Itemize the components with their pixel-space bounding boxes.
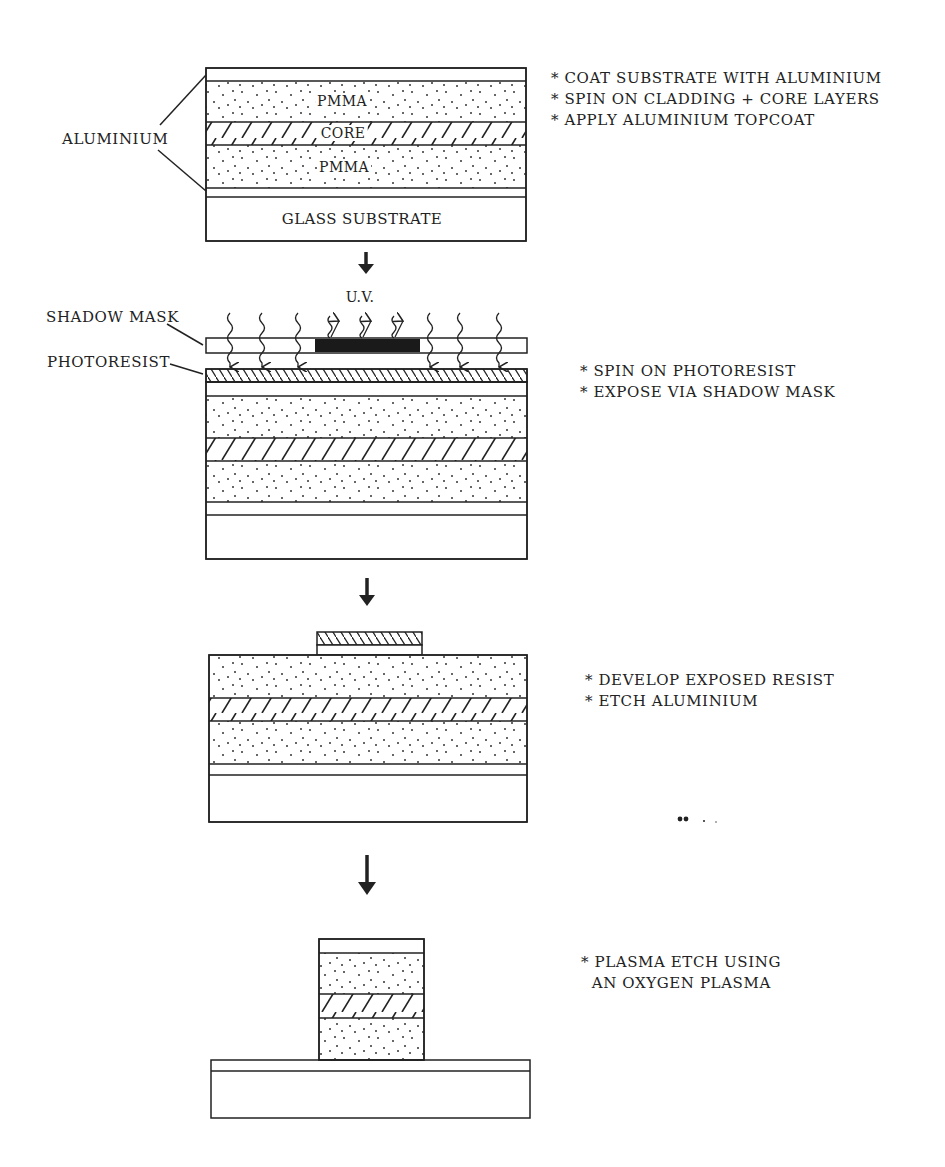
uv-rays-reflected bbox=[328, 316, 403, 338]
fabrication-process-diagram: ALUMINIUM PMMA CORE PMMA GLASS SUBSTRATE… bbox=[0, 0, 945, 1167]
stage2-steps: * SPIN ON PHOTORESIST * EXPOSE VIA SHADO… bbox=[580, 361, 835, 403]
stage3-stack bbox=[209, 632, 527, 822]
step-text: * DEVELOP EXPOSED RESIST bbox=[585, 670, 834, 691]
step-text: * EXPOSE VIA SHADOW MASK bbox=[580, 382, 835, 403]
process-arrow-1 bbox=[358, 252, 374, 274]
aluminium-label: ALUMINIUM bbox=[62, 130, 168, 148]
pmma-bottom-label: PMMA bbox=[317, 159, 371, 175]
step-text: * ETCH ALUMINIUM bbox=[585, 691, 834, 712]
diagram-graphics bbox=[0, 0, 945, 1167]
step-text: * PLASMA ETCH USING bbox=[581, 952, 781, 973]
shadow-mask-label: SHADOW MASK bbox=[46, 308, 179, 326]
step-text: AN OXYGEN PLASMA bbox=[581, 973, 781, 994]
pmma-top-label: PMMA bbox=[315, 93, 369, 109]
core-label: CORE bbox=[319, 125, 368, 141]
step-text: * APPLY ALUMINIUM TOPCOAT bbox=[551, 110, 882, 131]
process-arrow-3 bbox=[358, 855, 376, 895]
step-text: * SPIN ON CLADDING + CORE LAYERS bbox=[551, 89, 882, 110]
step-text: * COAT SUBSTRATE WITH ALUMINIUM bbox=[551, 68, 882, 89]
stage2-stack bbox=[167, 324, 527, 559]
stray-marks bbox=[678, 817, 717, 823]
step-text: * SPIN ON PHOTORESIST bbox=[580, 361, 835, 382]
stage3-steps: * DEVELOP EXPOSED RESIST * ETCH ALUMINIU… bbox=[585, 670, 834, 712]
glass-substrate-label: GLASS SUBSTRATE bbox=[282, 210, 442, 228]
stage4-steps: * PLASMA ETCH USING AN OXYGEN PLASMA bbox=[581, 952, 781, 994]
stage4-stack bbox=[211, 939, 530, 1118]
photoresist-label: PHOTORESIST bbox=[47, 353, 170, 371]
stage1-steps: * COAT SUBSTRATE WITH ALUMINIUM * SPIN O… bbox=[551, 68, 882, 131]
process-arrow-2 bbox=[359, 578, 375, 606]
uv-label: U.V. bbox=[346, 289, 375, 305]
